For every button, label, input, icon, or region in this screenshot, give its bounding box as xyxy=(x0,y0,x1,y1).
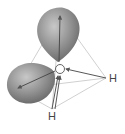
molecule-diagram xyxy=(0,0,125,134)
hydrogen-right-label: H xyxy=(109,73,117,84)
lone-pair-left xyxy=(7,63,55,104)
lone-pair-top xyxy=(37,8,80,62)
hydrogen-bottom-label: H xyxy=(48,111,56,122)
oxygen-atom xyxy=(56,65,65,74)
